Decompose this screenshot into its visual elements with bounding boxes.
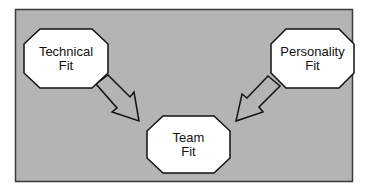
node-personality-fit: Personality Fit xyxy=(271,29,354,88)
node-team-fit: Team Fit xyxy=(147,116,230,173)
diagram-canvas: Technical Fit Personality Fit Team Fit xyxy=(0,0,378,189)
node-technical-fit-line1: Technical xyxy=(39,45,93,59)
node-personality-fit-line2: Fit xyxy=(305,59,319,73)
node-team-fit-line1: Team xyxy=(173,131,205,145)
node-technical-fit-line2: Fit xyxy=(59,59,73,73)
node-technical-fit: Technical Fit xyxy=(24,29,108,88)
node-personality-fit-line1: Personality xyxy=(280,45,344,59)
node-team-fit-line2: Fit xyxy=(181,145,195,159)
